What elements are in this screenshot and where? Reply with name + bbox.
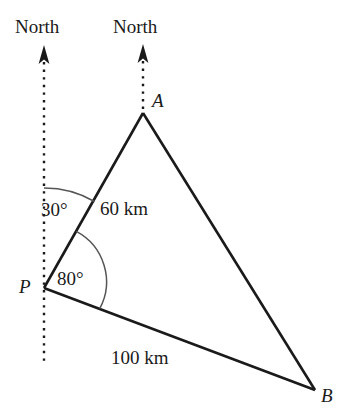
vertex-label-a: A	[152, 91, 164, 110]
angle-label-30: 30°	[41, 200, 68, 219]
north-label-right: North	[113, 17, 157, 36]
north-label-left: North	[15, 17, 59, 36]
distance-label-pb: 100 km	[111, 348, 169, 367]
distance-label-pa: 60 km	[100, 199, 148, 218]
angle-label-80: 80°	[57, 269, 84, 288]
bearing-diagram-canvas: North North A P B 30° 80° 60 km 100 km	[0, 0, 349, 418]
north-arrow-right-icon	[138, 44, 149, 63]
vertex-label-b: B	[321, 386, 333, 405]
segment-pb	[44, 288, 315, 390]
north-arrow-left-icon	[39, 45, 50, 64]
vertex-label-p: P	[19, 277, 31, 296]
